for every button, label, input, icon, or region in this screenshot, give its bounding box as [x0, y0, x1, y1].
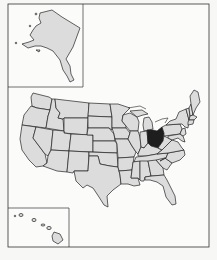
state-arkansas: [118, 157, 134, 171]
state-connecticut-rhode-island: [188, 120, 194, 125]
us-locator-map: [0, 0, 217, 260]
hawaii-island-molokai: [41, 224, 45, 226]
hawaii-island-kauai: [19, 214, 23, 217]
hawaii-island-oahu: [32, 218, 36, 221]
map-canvas: [0, 0, 217, 260]
alaska-island: [35, 13, 37, 15]
state-kansas: [93, 141, 117, 153]
state-wyoming: [64, 118, 88, 135]
state-new-mexico: [67, 151, 89, 173]
state-colorado: [69, 134, 93, 152]
alaska-island: [29, 25, 31, 27]
hawaii-island-maui: [47, 226, 51, 229]
alaska-island: [15, 42, 17, 44]
state-iowa: [112, 128, 130, 139]
state-north-dakota: [88, 103, 112, 117]
hawaii-island-kauai-niihau: [14, 215, 16, 217]
